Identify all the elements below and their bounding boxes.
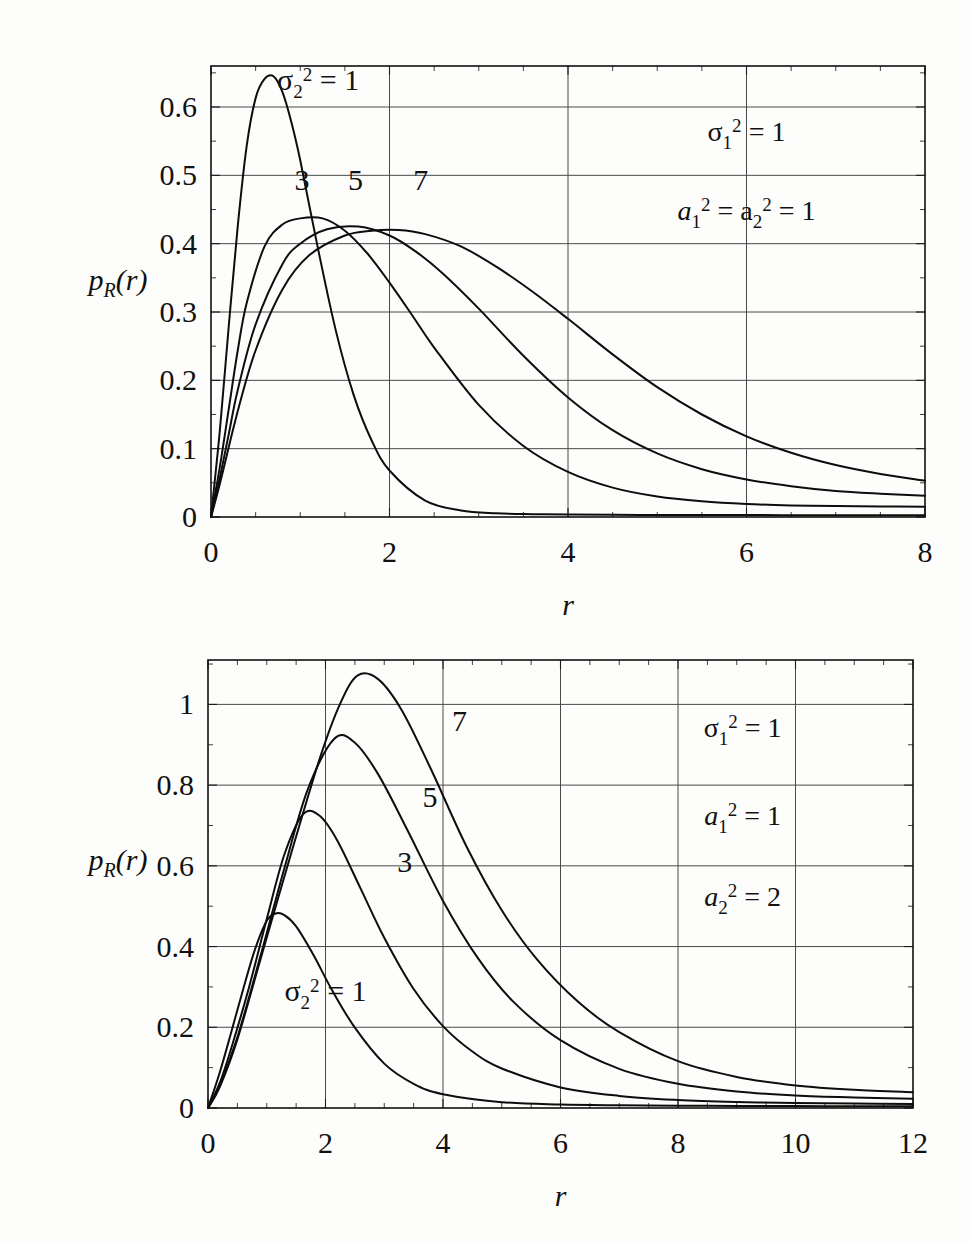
ytick-label: 0.8 — [157, 768, 195, 801]
curve-label-3: 5 — [348, 163, 363, 196]
ytick-label: 0.2 — [160, 363, 198, 396]
ytick-label: 0 — [179, 1091, 194, 1124]
curve-label-4: 7 — [452, 704, 467, 737]
annotation-a1: a12 = 1 — [704, 799, 781, 837]
ytick-label: 0.6 — [157, 849, 195, 882]
ytick-label: 1 — [179, 687, 194, 720]
curve-label-3: 5 — [423, 780, 438, 813]
curve-label-4: 7 — [413, 163, 428, 196]
y-axis-title: pR(r) — [87, 263, 148, 301]
ytick-label: 0.1 — [160, 432, 198, 465]
ytick-label: 0.5 — [160, 158, 198, 191]
annotation-sigma1: σ12 = 1 — [704, 711, 782, 749]
curve-label-1: σ22 = 1 — [277, 63, 359, 102]
xtick-label: 0 — [201, 1126, 216, 1159]
top-plot: 0246800.10.20.30.40.50.6rpR(r)σ22 = 1357… — [0, 0, 970, 622]
bottom-plot: 02468101200.20.40.60.81rpR(r)σ22 = 1357σ… — [0, 600, 970, 1244]
xtick-label: 12 — [898, 1126, 928, 1159]
figure-page: 0246800.10.20.30.40.50.6rpR(r)σ22 = 1357… — [0, 0, 970, 1244]
y-axis-title: pR(r) — [87, 843, 148, 881]
x-axis-title: r — [555, 1179, 567, 1212]
ytick-label: 0.2 — [157, 1010, 195, 1043]
xtick-label: 4 — [436, 1126, 451, 1159]
xtick-label: 2 — [318, 1126, 333, 1159]
curve-label-2: 3 — [295, 163, 310, 196]
xtick-label: 2 — [382, 535, 397, 568]
labels: 02468101200.20.40.60.81rpR(r)σ22 = 1357σ… — [87, 687, 928, 1212]
gridlines — [211, 66, 925, 517]
xtick-label: 4 — [561, 535, 576, 568]
bottom-plot-canvas: 02468101200.20.40.60.81rpR(r)σ22 = 1357σ… — [0, 600, 970, 1244]
top-plot-canvas: 0246800.10.20.30.40.50.6rpR(r)σ22 = 1357… — [0, 0, 970, 622]
ytick-label: 0 — [182, 500, 197, 533]
ytick-label: 0.4 — [157, 930, 195, 963]
xtick-label: 10 — [781, 1126, 811, 1159]
xtick-label: 6 — [739, 535, 754, 568]
xtick-label: 8 — [918, 535, 933, 568]
xtick-label: 8 — [671, 1126, 686, 1159]
annotation-a2: a22 = 2 — [704, 880, 781, 918]
curve-label-2: 3 — [397, 845, 412, 878]
ytick-label: 0.6 — [160, 90, 198, 123]
xtick-label: 6 — [553, 1126, 568, 1159]
ytick-label: 0.3 — [160, 295, 198, 328]
ytick-label: 0.4 — [160, 227, 198, 260]
xtick-label: 0 — [204, 535, 219, 568]
